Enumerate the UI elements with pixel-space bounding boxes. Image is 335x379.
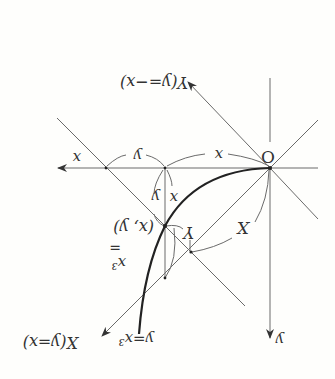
diagonal-upper-right — [270, 120, 318, 168]
origin-label: O — [261, 147, 275, 167]
point-on-X — [189, 250, 192, 253]
arc-top-x-left — [167, 154, 205, 166]
arc-top-y-right — [146, 155, 164, 166]
top-y-label: y — [133, 147, 143, 165]
arc-X-upper — [255, 170, 269, 222]
X-axis-label: X(y=x) — [23, 333, 80, 352]
diagram-canvas: O Y(y=−x) x y x y x Y X (x, y) = — [0, 0, 335, 379]
Y-label: Y — [182, 223, 194, 242]
diagonal-lower-right — [270, 168, 318, 219]
vert-x-label: x — [169, 189, 178, 207]
arc-vert-right — [167, 170, 172, 186]
arc-top-y — [107, 155, 126, 166]
curve-label: y=x³ — [118, 330, 155, 348]
top-x-label: x — [214, 146, 223, 164]
arc-lower-inner — [165, 228, 175, 278]
point-xy — [163, 224, 167, 228]
X-axis-line — [102, 168, 270, 336]
X-label: X — [236, 218, 251, 238]
Y-axis-label: Y(y=−x) — [120, 73, 188, 92]
point-top-left — [105, 167, 108, 170]
vert-y-label: y — [151, 188, 161, 206]
point-xy-label: (x, y) — [113, 218, 154, 237]
y-axis-label: y — [275, 331, 285, 349]
Y-axis-line — [188, 82, 270, 168]
point-top-mid — [164, 167, 167, 170]
x-axis-label: x — [72, 149, 81, 167]
point-lower — [164, 277, 167, 280]
eq-sign-label: = — [109, 240, 121, 256]
x-cubed-label: x³ — [112, 254, 126, 272]
diagram-svg: O Y(y=−x) x y x y x Y X (x, y) = — [0, 0, 335, 379]
